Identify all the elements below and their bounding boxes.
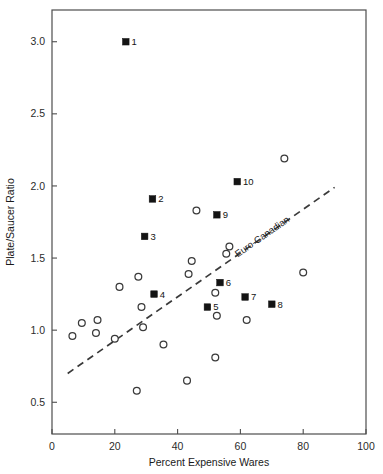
data-point-circle [281,155,288,162]
data-point-square [204,304,211,311]
data-point-label: 9 [223,209,228,220]
data-point-circle [212,354,219,361]
x-tick-label: 0 [49,440,55,452]
y-tick-label: 3.0 [30,35,45,47]
labeled-site-points: 12345678910 [122,36,282,312]
data-point-circle [116,283,123,290]
plot-canvas: 0.51.01.52.02.53.0 020406080100 Euro-Can… [0,0,383,474]
data-point-label: 7 [251,291,256,302]
data-point-circle [135,273,142,280]
data-point-square [122,38,129,45]
data-point-label: 8 [278,299,283,310]
x-tick-label: 40 [172,440,184,452]
data-point-circle [300,269,307,276]
data-point-label: 10 [243,176,254,187]
x-tick-label: 100 [357,440,375,452]
x-tick-label: 80 [297,440,309,452]
data-point-label: 3 [150,231,155,242]
y-tick-label: 0.5 [30,396,45,408]
data-point-label: 6 [226,277,231,288]
euro-canadian-trend-label: Euro-Canadian [233,214,292,260]
x-axis-title: Percent Expensive Wares [149,456,269,468]
data-point-circle [69,333,76,340]
data-point-circle [133,387,140,394]
data-point-label: 1 [132,36,137,47]
data-point-square [141,233,148,240]
data-point-circle [160,341,167,348]
data-point-circle [213,312,220,319]
data-point-circle [212,289,219,296]
y-tick-label: 1.0 [30,324,45,336]
data-point-circle [111,335,118,342]
data-point-square [242,294,249,301]
data-point-circle [94,317,101,324]
data-point-label: 5 [213,301,218,312]
data-point-circle [188,258,195,265]
trend-line-group: Euro-Canadian [68,187,335,373]
data-point-square [234,178,241,185]
data-point-circle [78,320,85,327]
y-axis-ticks: 0.51.01.52.02.53.0 [30,35,57,408]
y-axis-title: Plate/Saucer Ratio [4,178,16,266]
data-point-square [151,291,158,298]
data-point-circle [138,304,145,311]
unlabeled-site-points [69,155,307,394]
plot-frame [52,10,366,434]
data-point-square [217,279,224,286]
data-point-circle [185,271,192,278]
data-point-circle [223,250,230,257]
x-tick-label: 20 [109,440,121,452]
data-point-square [269,301,276,308]
data-point-square [149,196,156,203]
euro-canadian-trend-line [68,187,335,373]
data-point-circle [193,207,200,214]
x-tick-label: 60 [235,440,247,452]
data-point-circle [226,243,233,250]
data-point-circle [184,377,191,384]
data-point-circle [140,324,147,331]
data-point-circle [243,317,250,324]
data-point-label: 4 [160,289,165,300]
y-tick-label: 2.0 [30,180,45,192]
data-point-square [214,211,221,218]
y-tick-label: 1.5 [30,252,45,264]
scatter-plot-figure: 0.51.01.52.02.53.0 020406080100 Euro-Can… [0,0,383,474]
data-point-label: 2 [158,193,163,204]
data-point-circle [93,330,100,337]
y-tick-label: 2.5 [30,107,45,119]
x-axis-ticks: 020406080100 [49,429,375,452]
